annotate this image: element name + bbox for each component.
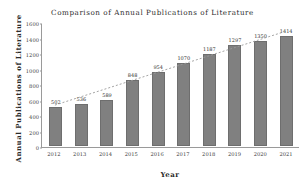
bar[interactable] xyxy=(75,104,88,146)
x-tick-label: 2018 xyxy=(196,151,222,157)
y-tick-mark xyxy=(40,24,42,25)
y-tick-mark xyxy=(40,101,42,102)
y-tick-mark xyxy=(40,117,42,118)
bar-slot: 589 xyxy=(94,24,120,146)
x-tick-label: 2012 xyxy=(41,151,67,157)
x-tick-label: 2019 xyxy=(222,151,248,157)
y-tick-label: 1400 xyxy=(26,37,39,43)
bar-slot: 1070 xyxy=(171,24,197,146)
bar[interactable] xyxy=(100,100,113,146)
bar-slot: 848 xyxy=(120,24,146,146)
y-tick-label: 200 xyxy=(29,130,39,136)
x-tick-label: 2014 xyxy=(93,151,119,157)
x-tick-label: 2020 xyxy=(247,151,273,157)
bar[interactable] xyxy=(49,107,62,146)
y-tick-label: 800 xyxy=(29,83,39,89)
bar-value-label: 536 xyxy=(77,96,87,102)
bar-slot: 502 xyxy=(43,24,69,146)
bar[interactable] xyxy=(254,41,267,146)
bar[interactable] xyxy=(177,63,190,146)
bar-slot: 1414 xyxy=(273,24,299,146)
y-tick-mark xyxy=(40,70,42,71)
bar-value-label: 954 xyxy=(153,64,163,70)
y-tick-mark xyxy=(40,39,42,40)
y-tick-label: 1200 xyxy=(26,52,39,58)
x-tick-label: 2017 xyxy=(170,151,196,157)
bar-slot: 1187 xyxy=(197,24,223,146)
chart-title: Comparison of Annual Publications of Lit… xyxy=(0,8,305,17)
bar-value-label: 1297 xyxy=(229,37,242,43)
x-axis-ticks: 2012201320142015201620172018201920202021 xyxy=(41,151,299,157)
y-axis-title: Annual Publications of Literature xyxy=(14,23,23,163)
bar-value-label: 848 xyxy=(128,72,138,78)
bar-value-label: 1350 xyxy=(254,33,267,39)
bar-value-label: 1187 xyxy=(203,46,216,52)
y-tick-label: 1600 xyxy=(26,21,39,27)
x-tick-label: 2015 xyxy=(118,151,144,157)
y-tick-label: 0 xyxy=(36,145,39,151)
y-tick-mark xyxy=(40,132,42,133)
bar[interactable] xyxy=(280,36,293,146)
bar[interactable] xyxy=(228,45,241,146)
bar-series: 50253658984895410701187129713501414 xyxy=(43,24,299,146)
bar-value-label: 502 xyxy=(51,99,61,105)
x-tick-label: 2016 xyxy=(144,151,170,157)
bar[interactable] xyxy=(126,80,139,146)
bar-value-label: 589 xyxy=(102,92,112,98)
bar[interactable] xyxy=(152,72,165,146)
bar-slot: 1297 xyxy=(222,24,248,146)
bar[interactable] xyxy=(203,54,216,146)
bar-value-label: 1070 xyxy=(177,55,190,61)
x-axis-title: Year xyxy=(41,170,299,179)
y-tick-mark xyxy=(40,55,42,56)
bar-slot: 536 xyxy=(69,24,95,146)
x-tick-label: 2013 xyxy=(67,151,93,157)
y-tick-label: 400 xyxy=(29,114,39,120)
y-tick-label: 600 xyxy=(29,99,39,105)
y-tick-label: 1000 xyxy=(26,68,39,74)
bar-value-label: 1414 xyxy=(280,28,293,34)
bar-slot: 1350 xyxy=(248,24,274,146)
y-tick-mark xyxy=(40,148,42,149)
x-tick-label: 2021 xyxy=(273,151,299,157)
plot-area: 02004006008001000120014001600 5025365898… xyxy=(41,24,299,148)
y-tick-mark xyxy=(40,86,42,87)
bar-chart: Comparison of Annual Publications of Lit… xyxy=(0,0,305,192)
bar-slot: 954 xyxy=(145,24,171,146)
